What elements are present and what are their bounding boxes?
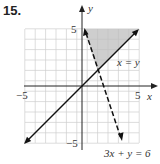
label-3x-plus-y-equals-6: 3x + y = 6 [103, 147, 151, 159]
x-tick-neg5: −5 [16, 89, 28, 101]
y-tick-5: 5 [71, 23, 77, 35]
graph: y x 5 −5 −5 5 x = y 3x + y = 6 [0, 0, 160, 164]
x-axis-label: x [146, 90, 152, 102]
label-x-equals-y: x = y [116, 56, 140, 68]
y-tick-neg5: −5 [66, 137, 78, 149]
y-axis-label: y [87, 2, 93, 14]
x-tick-5: 5 [135, 89, 141, 101]
